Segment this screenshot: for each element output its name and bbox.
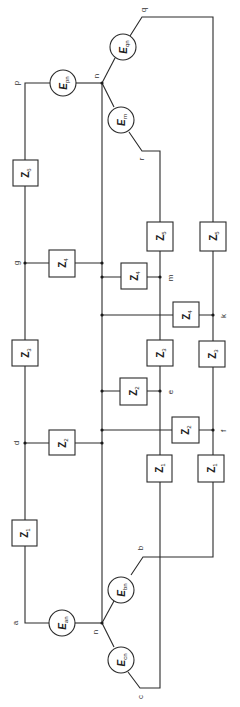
label-m: m: [166, 274, 175, 281]
impedance-mid-z5: Z5: [147, 222, 173, 251]
impedance-right-z5: Z5: [200, 222, 226, 251]
wire-n-eqn: [102, 58, 115, 83]
label-f: f: [219, 429, 228, 432]
label-g: g: [12, 261, 21, 265]
wire-n-ern: [102, 83, 114, 107]
source-ebn: Ebn: [108, 577, 134, 603]
wire-eqn-q: [130, 17, 213, 575]
source-ecn: Ecn: [108, 647, 134, 673]
impedance-left-z3: Z3: [12, 340, 38, 366]
junction-d: [23, 441, 26, 444]
label-r: r: [137, 157, 146, 160]
wire-ern-r: [128, 132, 160, 688]
label-c: c: [136, 695, 145, 699]
junction-bus-443: [100, 441, 103, 444]
junctions: [23, 81, 214, 624]
impedance-mid-z2: Z2: [120, 378, 147, 405]
label-d: d: [12, 441, 21, 445]
wire-n-ecn: [102, 623, 114, 647]
impedance-right-z3: Z3: [199, 341, 225, 367]
junction-e: [158, 389, 161, 392]
impedance-mid-z1: Z1: [147, 455, 172, 482]
junction-n-top: [100, 81, 103, 84]
label-p: p: [12, 80, 21, 85]
label-n-top: n: [92, 74, 101, 78]
junction-bus-315: [100, 313, 103, 316]
impedance-mid-z3: Z3: [147, 340, 173, 366]
label-q: q: [139, 8, 148, 12]
wire-n-ebn: [102, 601, 114, 623]
junction-f: [211, 428, 214, 431]
impedance-right-z2: Z2: [172, 417, 199, 443]
junction-bus-277: [100, 275, 103, 278]
label-a: a: [11, 620, 20, 625]
junction-bus-263: [100, 261, 103, 264]
junction-g: [23, 261, 26, 264]
label-k: k: [219, 313, 228, 318]
impedance-left-z4: Z4: [49, 250, 75, 277]
label-n-bottom: n: [91, 630, 100, 634]
voltage-sources: Epn Eqn Ern Ean Ebn Ecn: [49, 34, 136, 673]
impedance-left-z1: Z1: [12, 520, 37, 546]
junction-bus-391: [100, 389, 103, 392]
junction-n-bottom: [100, 621, 103, 624]
source-ean: Ean: [49, 610, 75, 636]
impedance-mid-z4: Z4: [121, 263, 147, 289]
label-b: b: [136, 545, 145, 550]
impedance-right-z1: Z1: [198, 455, 224, 482]
label-e: e: [166, 389, 175, 394]
source-eqn: Eqn: [110, 34, 136, 60]
impedances: Z6 Z3 Z1 Z4 Z2 Z5 Z4 Z3: [12, 160, 226, 546]
impedance-right-z4: Z4: [173, 302, 199, 327]
source-epn: Epn: [50, 70, 76, 96]
junction-bus-430: [100, 428, 103, 431]
circuit-diagram: Z6 Z3 Z1 Z4 Z2 Z5 Z4 Z3: [0, 0, 240, 707]
junction-m: [158, 275, 161, 278]
source-ern: Ern: [108, 107, 134, 133]
junction-k: [211, 313, 214, 316]
impedance-left-z2: Z2: [49, 430, 75, 455]
impedance-left-z6: Z6: [13, 160, 38, 186]
